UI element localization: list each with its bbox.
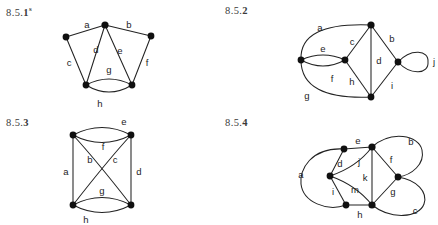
edge-label-d: d	[376, 55, 381, 66]
edge-g	[73, 198, 131, 206]
edge-label-h: h	[357, 209, 362, 220]
edge-label-g: g	[304, 90, 309, 101]
edge-label-h: h	[83, 214, 88, 225]
vertex	[101, 21, 108, 28]
exercise-figure-sheet: 8.5.1s a b c d e f g h	[0, 0, 438, 225]
edge-a	[301, 25, 371, 60]
edge-label-c: c	[413, 205, 418, 216]
edge-label-g: g	[390, 186, 395, 197]
figure-8-5-3: 8.5.3 e f b	[0, 112, 219, 225]
edge-label-d: d	[136, 166, 141, 177]
vertex	[83, 82, 90, 89]
figure-8-5-1: 8.5.1s a b c d e f g h	[0, 0, 219, 113]
edge-label-f: f	[331, 73, 334, 84]
vertex	[128, 132, 135, 139]
edge-label-j: j	[357, 156, 360, 167]
vertex	[395, 174, 402, 181]
figure-8-5-2: 8.5.2	[219, 0, 438, 113]
edge-label-c: c	[67, 57, 72, 68]
vertex	[70, 132, 77, 139]
vertex	[342, 57, 349, 64]
graph-drawing-8-5-1: a b c d e f g h	[0, 0, 219, 113]
edge-label-a: a	[63, 166, 69, 177]
edge-label-m: m	[351, 184, 359, 195]
edge-label-f: f	[390, 154, 393, 165]
edge-label-b: b	[408, 136, 413, 147]
vertex	[129, 82, 136, 89]
vertex	[298, 57, 305, 64]
vertex	[128, 202, 135, 209]
edge-label-g: g	[106, 64, 111, 75]
vertex	[395, 59, 402, 66]
graph-drawing-8-5-4: e b d j f a k i m g h c	[219, 112, 438, 225]
vertex	[341, 146, 348, 153]
edge-label-h: h	[349, 76, 354, 87]
edge-e	[301, 55, 345, 60]
edge-g	[86, 79, 132, 85]
edge-label-c: c	[113, 154, 118, 165]
vertex	[148, 33, 155, 40]
graph-drawing-8-5-2: a b c d e f g h i j	[219, 0, 438, 113]
edge-h	[73, 205, 131, 213]
edge-f	[301, 60, 345, 66]
vertex	[327, 173, 334, 180]
edge-g	[301, 60, 371, 97]
edge-j-loop	[398, 52, 428, 72]
edge-label-e: e	[121, 116, 126, 127]
edge-label-c: c	[350, 36, 355, 47]
vertex	[70, 202, 77, 209]
vertex	[367, 21, 374, 28]
edge-label-i: i	[391, 80, 393, 91]
edge-label-b: b	[389, 33, 394, 44]
edge-label-b: b	[126, 19, 131, 30]
edge-label-d: d	[93, 44, 98, 55]
edge-label-e: e	[117, 45, 122, 56]
edge-label-i: i	[332, 186, 334, 197]
vertex	[368, 94, 375, 101]
edge-label-a: a	[84, 19, 90, 30]
edge-f	[372, 147, 398, 177]
vertex	[368, 143, 375, 150]
edge-h	[86, 85, 132, 92]
edge-label-a: a	[298, 169, 304, 180]
edge-e	[344, 147, 372, 149]
edge-label-d: d	[337, 158, 342, 169]
edge-label-k: k	[363, 172, 368, 183]
edge-label-e: e	[355, 135, 360, 146]
edge-i	[371, 62, 398, 97]
edge-b	[372, 136, 422, 177]
edge-label-f: f	[146, 57, 149, 68]
edge-d	[86, 25, 105, 85]
edge-label-g: g	[99, 185, 104, 196]
figure-8-5-4: 8.5.4	[219, 112, 438, 225]
edge-e	[73, 128, 131, 136]
vertex	[343, 202, 350, 209]
edge-label-b: b	[87, 154, 92, 165]
vertex	[368, 201, 375, 208]
edge-label-e: e	[320, 43, 325, 54]
vertex	[63, 34, 70, 41]
edge-label-a: a	[317, 22, 323, 33]
edge-label-f: f	[102, 141, 105, 152]
graph-drawing-8-5-3: e f b c a d g h	[0, 112, 219, 225]
edge-label-h: h	[97, 98, 102, 109]
edge-label-j: j	[432, 56, 435, 67]
